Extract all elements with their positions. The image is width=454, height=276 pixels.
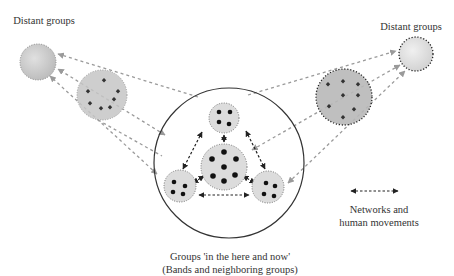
distant-group-right [399, 37, 433, 71]
diagram-canvas [0, 0, 454, 276]
legend-label-line1: Networks and [334, 203, 424, 216]
label-distant-right: Distant groups [370, 20, 452, 33]
mid-group-right [316, 69, 372, 125]
caption-line1: Groups 'in the here and now' [150, 250, 310, 263]
inner-group-top [209, 103, 239, 133]
inner-group-center [201, 144, 247, 190]
inner-group-bottom-left [164, 170, 196, 202]
caption-line2: (Bands and neighboring groups) [140, 263, 320, 276]
label-distant-left: Distant groups [4, 14, 84, 27]
distant-group-left [20, 44, 56, 80]
inner-group-bottom-right [252, 171, 284, 203]
legend-label-line2: human movements [326, 216, 432, 229]
mid-group-left [77, 70, 127, 120]
